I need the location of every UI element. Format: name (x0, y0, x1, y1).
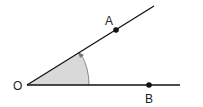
ray-oa (27, 6, 154, 85)
point-b (146, 82, 152, 88)
point-a (113, 27, 119, 33)
label-b: B (145, 92, 153, 106)
label-a: A (105, 14, 113, 28)
label-o: O (13, 79, 22, 93)
angle-diagram: A B O (0, 0, 203, 107)
angle-sector (27, 53, 89, 85)
